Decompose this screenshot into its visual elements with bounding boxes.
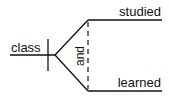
subject-word: class (11, 40, 41, 55)
predicate-word-upper: studied (119, 4, 161, 19)
conjunction-word: and (73, 46, 87, 66)
predicate-word-lower: learned (118, 75, 161, 90)
sentence-diagram: class studied learned and (0, 0, 169, 98)
